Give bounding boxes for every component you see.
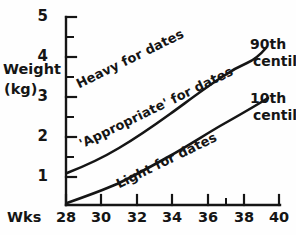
y-axis-title-line1: Weight xyxy=(3,62,61,77)
y-axis-tick-label-1: 1 xyxy=(28,169,48,184)
x-axis-tick-label-32: 32 xyxy=(124,210,150,225)
x-axis-tick-label-28: 28 xyxy=(53,210,79,225)
centile-label-10th: 10th centile xyxy=(250,90,296,123)
x-axis-tick-label-40: 40 xyxy=(266,210,292,225)
x-axis-major-ticks xyxy=(66,195,279,205)
x-axis-tick-label-36: 36 xyxy=(195,210,221,225)
x-axis-tick-label-38: 38 xyxy=(231,210,257,225)
x-axis-tick-label-30: 30 xyxy=(88,210,114,225)
y-axis-major-ticks xyxy=(66,17,76,177)
centile-label-90th: 90th centile xyxy=(250,36,296,69)
centile-label-90th-line2: centile xyxy=(250,53,296,70)
centile-label-90th-line1: 90th xyxy=(250,36,296,53)
centile-label-10th-line1: 10th xyxy=(250,90,296,107)
x-axis-title: Wks xyxy=(7,210,41,225)
y-axis-tick-label-5: 5 xyxy=(28,9,48,24)
y-axis-tick-label-2: 2 xyxy=(28,129,48,144)
x-axis-tick-label-34: 34 xyxy=(159,210,185,225)
centile-label-10th-line2: centile xyxy=(250,107,296,124)
y-axis-title-line2: (kg) xyxy=(4,82,37,97)
growth-chart-figure: 5 4 3 2 1 Weight (kg) Wks 28 30 32 34 36… xyxy=(0,0,296,235)
